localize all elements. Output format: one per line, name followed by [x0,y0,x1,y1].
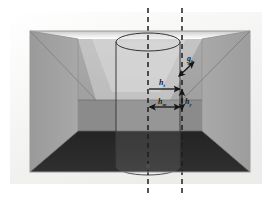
margin-mask-top [0,0,276,8]
perspective-room-diagram: ht hm gb hy [0,0,276,203]
label-h-m-subscript: m [162,102,166,107]
figure-root: ht hm gb hy [0,0,276,203]
margin-mask-bottom [0,196,276,203]
scene-group: ht hm gb hy [30,8,250,196]
cylinder-base-contact-point [146,164,150,168]
